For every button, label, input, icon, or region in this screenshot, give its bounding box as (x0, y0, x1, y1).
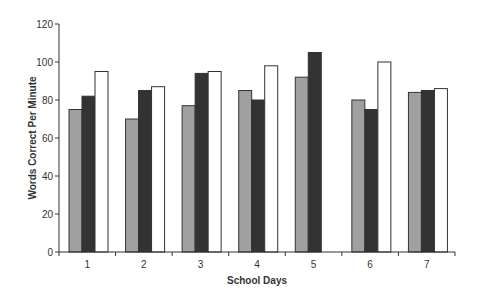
bars-group (69, 53, 447, 253)
bar-1-day-3 (182, 106, 195, 252)
bar-3-day-1 (95, 72, 108, 253)
bar-3-day-6 (378, 62, 391, 252)
y-tick-label: 40 (42, 171, 54, 182)
bar-3-day-3 (208, 72, 221, 253)
bar-2-day-3 (195, 73, 208, 252)
x-axis: 1234567 (59, 252, 455, 270)
x-axis-title: School Days (227, 275, 287, 286)
x-tick-label: 2 (141, 259, 147, 270)
y-tick-label: 100 (36, 57, 53, 68)
y-tick-label: 80 (42, 95, 54, 106)
bar-1-day-6 (352, 100, 365, 252)
bar-1-day-5 (295, 77, 308, 252)
bar-1-day-2 (126, 119, 139, 252)
bar-2-day-2 (139, 91, 152, 253)
y-axis: 020406080100120 (36, 19, 59, 258)
y-tick-label: 60 (42, 133, 54, 144)
y-axis-title: Words Correct Per Minute (27, 76, 38, 200)
bar-2-day-4 (252, 100, 265, 252)
bar-2-day-5 (308, 53, 321, 253)
bar-2-day-6 (365, 110, 378, 253)
y-tick-label: 120 (36, 19, 53, 30)
bar-3-day-4 (265, 66, 278, 252)
bar-3-day-2 (152, 87, 165, 252)
bar-chart: 020406080100120 1234567 Words Correct Pe… (0, 0, 477, 304)
bar-2-day-1 (82, 96, 95, 252)
x-tick-label: 1 (85, 259, 91, 270)
x-tick-label: 5 (311, 259, 317, 270)
x-tick-label: 4 (254, 259, 260, 270)
x-tick-label: 7 (424, 259, 430, 270)
x-tick-label: 3 (198, 259, 204, 270)
bar-2-day-7 (421, 91, 434, 253)
bar-1-day-7 (408, 92, 421, 252)
y-tick-label: 20 (42, 209, 54, 220)
bar-1-day-4 (239, 91, 252, 253)
x-tick-label: 6 (367, 259, 373, 270)
bar-1-day-1 (69, 110, 82, 253)
y-tick-label: 0 (47, 247, 53, 258)
bar-3-day-7 (434, 89, 447, 252)
